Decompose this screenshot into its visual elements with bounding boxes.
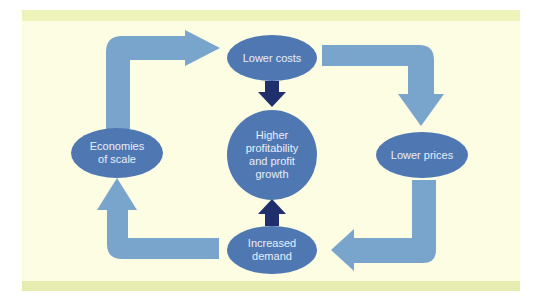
- arrow-costs-to-prices: [322, 45, 444, 126]
- node-economies-of-scale-line-1: Economies: [90, 140, 144, 153]
- node-economies-of-scale-line-2: of scale: [98, 153, 136, 166]
- node-lower-costs: Lower costs: [227, 35, 317, 81]
- node-lower-costs-label: Lower costs: [243, 52, 302, 65]
- arrow-scale-to-costs: [106, 30, 220, 129]
- node-increased-demand-line-1: Increased: [248, 237, 296, 250]
- node-increased-demand-line-2: demand: [252, 250, 292, 263]
- node-economies-of-scale: Economies of scale: [71, 128, 163, 178]
- node-center-line-3: and profit: [249, 155, 295, 168]
- arrow-demand-to-scale: [97, 178, 219, 259]
- node-center-line-1: Higher: [256, 129, 288, 142]
- arrow-prices-to-demand: [331, 180, 436, 271]
- arrow-costs-to-center: [258, 81, 286, 107]
- node-center-line-4: growth: [255, 168, 288, 181]
- node-lower-prices-label: Lower prices: [391, 149, 453, 162]
- node-increased-demand: Increased demand: [227, 226, 317, 274]
- arrow-demand-to-center: [258, 199, 286, 226]
- node-center-line-2: profitability: [246, 142, 299, 155]
- node-lower-prices: Lower prices: [376, 132, 468, 178]
- node-center: Higher profitability and profit growth: [227, 110, 317, 200]
